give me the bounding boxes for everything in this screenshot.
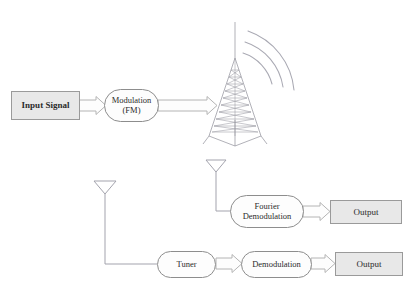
node-fourier-demodulation-label-line2: Demodulation	[243, 212, 292, 222]
antenna-lower-icon	[94, 181, 157, 264]
transmission-tower-icon	[203, 22, 267, 146]
arrow-modulation-to-tower	[158, 97, 217, 115]
node-output-upper[interactable]: Output	[330, 200, 402, 224]
node-tuner-label: Tuner	[177, 260, 197, 270]
arrow-demodulation-to-output-lower	[311, 255, 335, 273]
node-modulation[interactable]: Modulation (FM)	[104, 89, 159, 122]
node-modulation-label-line2: (FM)	[123, 106, 141, 116]
node-fourier-demodulation[interactable]: Fourier Demodulation	[230, 195, 304, 228]
diagram-vector-layer: .ln{stroke:#9c9c9c;stroke-width:1;fill:n…	[0, 0, 414, 292]
node-tuner[interactable]: Tuner	[157, 251, 216, 278]
diagram-canvas: .ln{stroke:#9c9c9c;stroke-width:1;fill:n…	[0, 0, 414, 292]
arrow-tuner-to-demodulation	[216, 255, 242, 273]
node-input-signal[interactable]: Input Signal	[11, 91, 80, 120]
node-input-signal-label: Input Signal	[22, 100, 70, 110]
node-demodulation-label: Demodulation	[252, 260, 301, 270]
antenna-upper-icon	[206, 160, 232, 211]
node-output-upper-label: Output	[353, 207, 378, 217]
node-demodulation[interactable]: Demodulation	[241, 251, 312, 278]
node-output-lower[interactable]: Output	[335, 252, 403, 276]
arrow-input-to-modulation	[79, 97, 106, 115]
node-output-lower-label: Output	[356, 259, 381, 269]
radio-waves-icon	[243, 31, 294, 90]
arrow-fourier-to-output-upper	[303, 203, 330, 221]
